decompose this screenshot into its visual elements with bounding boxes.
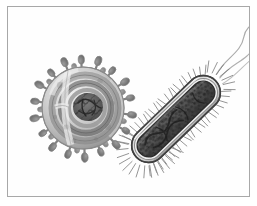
illustration-canvas	[8, 7, 249, 196]
flagellum-loop	[246, 19, 249, 44]
figure-plate: Virus particle spherical enveloped virio…	[0, 0, 257, 206]
specimen-1-name: Virus particle	[0, 0, 1, 1]
virus-nucleic-acid-core	[73, 93, 103, 121]
flagellum-1	[207, 7, 249, 74]
specimen-artwork-svg	[8, 7, 249, 196]
